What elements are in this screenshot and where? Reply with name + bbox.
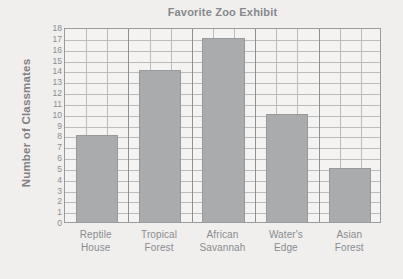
x-axis-tick-label: AsianForest	[304, 228, 394, 254]
grid-line-vertical	[319, 29, 320, 222]
bar-chart: Favorite Zoo Exhibit Number of Classmate…	[0, 0, 403, 279]
y-axis-tick-label: 7	[40, 143, 62, 152]
y-axis-tick-label: 13	[40, 78, 62, 87]
x-axis-tick-label-line1: Reptile	[80, 229, 112, 240]
bar	[202, 38, 244, 222]
y-axis-tick-label: 16	[40, 45, 62, 54]
y-axis-tick-label: 8	[40, 132, 62, 141]
x-axis-tick-label-line1: Water's	[269, 229, 303, 240]
y-axis-tick-label: 10	[40, 110, 62, 119]
y-axis-tick-label: 0	[40, 219, 62, 228]
y-axis-tick-label: 18	[40, 24, 62, 33]
y-axis-tick-label: 5	[40, 165, 62, 174]
grid-line-vertical	[192, 29, 193, 222]
y-axis-tick-label: 17	[40, 35, 62, 44]
y-axis-title: Number of Classmates	[20, 33, 32, 213]
y-axis-tick-label: 12	[40, 89, 62, 98]
grid-line-vertical	[255, 29, 256, 222]
plot-area	[64, 28, 381, 223]
y-axis-tick-label: 4	[40, 175, 62, 184]
y-axis-tick-label: 15	[40, 56, 62, 65]
plot-grid-and-bars	[65, 29, 380, 222]
bar	[139, 70, 181, 222]
x-axis-tick-label-line1: African	[207, 229, 239, 240]
x-axis-tick-label-line2: Forest	[304, 241, 394, 254]
y-axis-tick-label: 9	[40, 121, 62, 130]
bar	[329, 168, 371, 222]
y-axis-tick-labels: 1817161514131211109876543210	[40, 28, 62, 223]
y-axis-tick-label: 14	[40, 67, 62, 76]
x-axis-tick-label-line1: Tropical	[141, 229, 177, 240]
chart-title: Favorite Zoo Exhibit	[64, 6, 381, 18]
y-axis-tick-label: 1	[40, 208, 62, 217]
y-axis-tick-label: 2	[40, 197, 62, 206]
y-axis-tick-label: 11	[40, 100, 62, 109]
x-axis-tick-labels: ReptileHouseTropicalForestAfricanSavanna…	[64, 228, 381, 268]
bar	[266, 114, 308, 222]
x-axis-tick-label-line1: Asian	[337, 229, 363, 240]
grid-line-vertical	[128, 29, 129, 222]
y-axis-tick-label: 6	[40, 154, 62, 163]
bar	[76, 135, 118, 222]
y-axis-tick-label: 3	[40, 186, 62, 195]
